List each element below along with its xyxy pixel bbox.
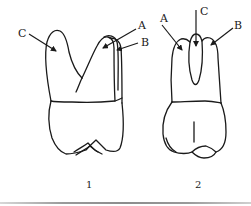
label-b-tooth-2: B [234, 20, 242, 31]
label-b-tooth-1: B [141, 37, 149, 48]
figure-number-1: 1 [86, 180, 92, 190]
figure-number-2: 2 [195, 180, 201, 190]
label-a-tooth-1: A [138, 20, 146, 31]
arrow-c-tooth-1 [29, 34, 56, 51]
tooth-1-arrows [29, 29, 138, 51]
tooth-2-arrows [162, 10, 233, 50]
label-a-tooth-2: A [160, 13, 168, 24]
tooth-1-drawing [46, 30, 124, 155]
bottom-divider [0, 202, 251, 204]
tooth-diagram-figure: C A B A C B 1 2 [0, 0, 251, 206]
tooth-drawings [0, 0, 251, 206]
arrow-b-tooth-2 [211, 28, 233, 45]
arrow-a-tooth-2 [162, 25, 182, 50]
tooth-2-drawing [163, 34, 226, 158]
label-c-tooth-2: C [200, 6, 208, 17]
label-c-tooth-1: C [18, 28, 26, 39]
